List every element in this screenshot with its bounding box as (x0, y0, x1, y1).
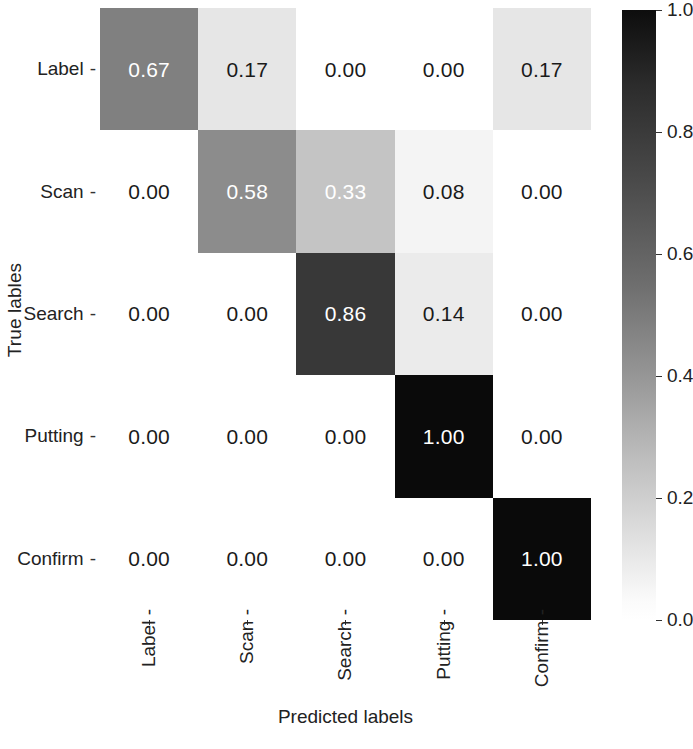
heatmap-cell-value: 1.00 (423, 426, 465, 447)
heatmap-cell: 0.58 (198, 130, 296, 252)
colorbar-ticks: 1.00.80.60.40.20.0 (622, 0, 691, 640)
heatmap-cell-value: 0.00 (325, 426, 367, 447)
heatmap-cell: 0.00 (493, 253, 591, 375)
colorbar-tick-mark (656, 620, 662, 621)
colorbar-tick-label: 0.0 (667, 610, 693, 629)
heatmap-cell-value: 0.86 (325, 303, 367, 324)
heatmap-cell-value: 0.00 (423, 59, 465, 80)
heatmap-cell-value: 0.00 (226, 548, 268, 569)
y-tick-dash: - (90, 58, 96, 80)
heatmap-cell: 0.00 (395, 8, 493, 130)
y-tick-text: Putting (25, 425, 84, 447)
heatmap-cell-value: 0.00 (226, 303, 268, 324)
x-tick-label: Scan - (198, 620, 296, 705)
heatmap-cell: 0.00 (100, 375, 198, 497)
heatmap-cell: 0.00 (100, 130, 198, 252)
heatmap-cell-value: 0.58 (226, 181, 268, 202)
y-tick-label: Scan - (0, 130, 100, 252)
y-tick-text: Label (37, 58, 84, 80)
y-tick-text: Confirm (17, 548, 84, 570)
x-axis-title: Predicted labels (100, 706, 591, 728)
colorbar-tick-mark (656, 132, 662, 133)
colorbar-tick-label: 1.0 (667, 0, 693, 19)
y-tick-dash: - (90, 425, 96, 447)
heatmap-cell-value: 0.00 (423, 548, 465, 569)
y-tick-label: Label - (0, 8, 100, 130)
heatmap-cell: 0.00 (296, 8, 394, 130)
y-tick-label: Confirm - (0, 498, 100, 620)
heatmap-cell-value: 0.00 (128, 303, 170, 324)
colorbar-tick-label: 0.6 (667, 244, 693, 263)
x-axis-tick-labels: Label - Scan - Search - Putting - Confir… (100, 620, 591, 705)
heatmap-cell: 0.00 (198, 498, 296, 620)
colorbar-tick-label: 0.2 (667, 488, 693, 507)
heatmap-cell: 0.00 (395, 498, 493, 620)
colorbar-tick-label: 0.8 (667, 122, 693, 141)
heatmap-cell-value: 0.00 (325, 548, 367, 569)
heatmap-cell-value: 0.00 (521, 303, 563, 324)
colorbar-tick-mark (656, 376, 662, 377)
heatmap-cell: 0.00 (296, 375, 394, 497)
heatmap-cell-value: 0.33 (325, 181, 367, 202)
heatmap-cell-value: 0.00 (521, 426, 563, 447)
heatmap-cell-value: 0.00 (128, 548, 170, 569)
heatmap-cell-value: 0.08 (423, 181, 465, 202)
y-tick-dash: - (90, 548, 96, 570)
heatmap-cell-value: 0.00 (325, 59, 367, 80)
heatmap-cell-value: 0.67 (128, 59, 170, 80)
y-tick-dash: - (90, 181, 96, 203)
heatmap-cell: 1.00 (493, 498, 591, 620)
y-axis-tick-labels: Label - Scan - Search - Putting - Confir… (0, 8, 100, 620)
x-tick-label: Confirm - (493, 620, 591, 705)
colorbar-tick-mark (656, 10, 662, 11)
y-tick-text: Scan (40, 181, 83, 203)
colorbar-tick-mark (656, 498, 662, 499)
heatmap-cell-value: 0.00 (521, 181, 563, 202)
y-tick-text: Search (23, 303, 83, 325)
heatmap-cell: 0.00 (493, 375, 591, 497)
heatmap-cell: 0.00 (493, 130, 591, 252)
heatmap-cell-value: 0.00 (226, 426, 268, 447)
heatmap-cell: 0.00 (198, 253, 296, 375)
heatmap-cell-value: 0.14 (423, 303, 465, 324)
heatmap-cell: 0.67 (100, 8, 198, 130)
heatmap-cell-value: 0.00 (128, 426, 170, 447)
heatmap-cell: 0.14 (395, 253, 493, 375)
heatmap-cell: 0.17 (198, 8, 296, 130)
heatmap-cell-value: 0.17 (521, 59, 563, 80)
x-tick-label: Label - (100, 620, 198, 705)
heatmap-cell-value: 0.00 (128, 181, 170, 202)
x-tick-label: Putting - (395, 620, 493, 705)
heatmap-cell: 0.00 (100, 498, 198, 620)
heatmap-cell: 1.00 (395, 375, 493, 497)
heatmap-cell-value: 1.00 (521, 548, 563, 569)
heatmap-cell: 0.00 (100, 253, 198, 375)
heatmap-cell: 0.17 (493, 8, 591, 130)
y-tick-dash: - (90, 303, 96, 325)
x-tick-label: Search - (296, 620, 394, 705)
y-tick-label: Putting - (0, 375, 100, 497)
heatmap-grid: 0.670.170.000.000.170.000.580.330.080.00… (100, 8, 591, 620)
y-tick-label: Search - (0, 253, 100, 375)
colorbar-tick-mark (656, 254, 662, 255)
heatmap-cell-value: 0.17 (226, 59, 268, 80)
heatmap-cell: 0.08 (395, 130, 493, 252)
heatmap-cell: 0.00 (198, 375, 296, 497)
heatmap-cell: 0.86 (296, 253, 394, 375)
heatmap-cell: 0.00 (296, 498, 394, 620)
colorbar-tick-label: 0.4 (667, 366, 693, 385)
heatmap-cell: 0.33 (296, 130, 394, 252)
